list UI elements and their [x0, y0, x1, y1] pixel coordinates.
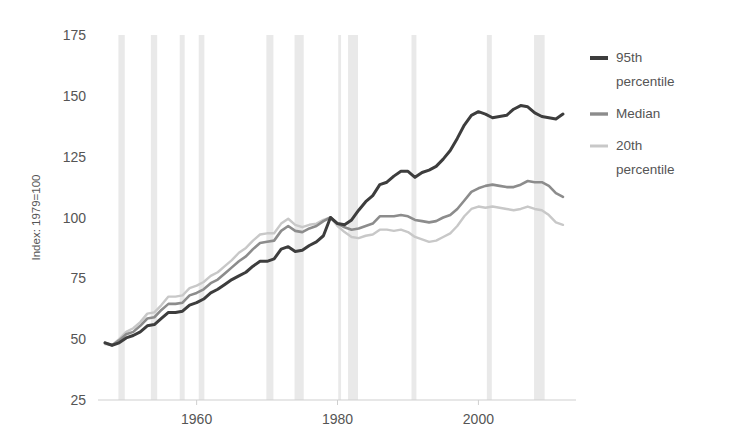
recession-band [180, 35, 185, 400]
y-axis-tick-label: 50 [70, 331, 86, 347]
x-axis-tick-label: 1960 [181, 411, 212, 427]
legend-label-3-line2: percentile [616, 162, 675, 177]
y-axis-tick-label: 100 [63, 210, 87, 226]
legend-label-3: 20th [616, 138, 642, 153]
x-axis-tick-labels: 196019802000 [181, 411, 494, 427]
x-axis-tick-label: 1980 [322, 411, 353, 427]
legend-label-1: 95th [616, 50, 642, 65]
recession-band [295, 35, 304, 400]
y-axis-tick-label: 175 [63, 27, 87, 43]
x-axis-tick-label: 2000 [463, 411, 494, 427]
y-axis-tick-label: 25 [70, 392, 86, 408]
legend: 95thpercentileMedian20thpercentile [590, 50, 675, 177]
recession-band [534, 35, 545, 400]
y-axis-title: Index: 1979=100 [30, 174, 42, 260]
y-axis-title-group: Index: 1979=100 [30, 174, 42, 260]
y-axis-tick-label: 150 [63, 88, 87, 104]
series-group [105, 106, 563, 346]
recession-band [266, 35, 273, 400]
y-axis-tick-labels: 255075100125150175 [63, 27, 87, 408]
legend-label-1-line2: percentile [616, 74, 675, 89]
chart-container: 255075100125150175 196019802000 Index: 1… [0, 0, 730, 444]
series-line-95th-percentile [105, 106, 563, 346]
y-axis-tick-label: 75 [70, 270, 86, 286]
series-line-20th-percentile [105, 207, 563, 346]
recession-band [118, 35, 124, 400]
recession-band [487, 35, 492, 400]
recession-band [151, 35, 157, 400]
line-chart: 255075100125150175 196019802000 Index: 1… [0, 0, 730, 444]
y-axis-tick-label: 125 [63, 149, 87, 165]
axis-group [98, 400, 576, 405]
recession-band [338, 35, 341, 400]
legend-label-2: Median [616, 106, 660, 121]
recession-band [199, 35, 205, 400]
